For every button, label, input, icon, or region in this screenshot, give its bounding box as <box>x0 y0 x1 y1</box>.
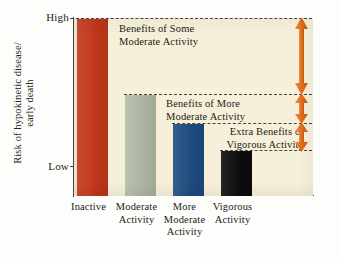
bar-vigorous-activity <box>221 151 252 196</box>
y-tick-label-low: Low <box>38 160 69 172</box>
bar-inactive <box>77 19 108 196</box>
bar-moderate-activity <box>125 95 156 196</box>
annotation-some-moderate-line2: Moderate Activity <box>119 36 198 49</box>
annotation-more-moderate-line2: Moderate Activity <box>166 111 245 124</box>
y-tick-label-high: High <box>38 11 69 23</box>
annotation-vigorous-line2: Vigorous Activity <box>200 139 304 152</box>
x-tick-vigorous-line2: Activity <box>201 214 264 227</box>
arrow-benefit-some-moderate <box>293 18 310 96</box>
annotation-more-moderate-line1: Benefits of More <box>166 98 245 111</box>
annotation-more-moderate: Benefits of More Moderate Activity <box>166 98 245 124</box>
plot-area: Benefits of Some Moderate Activity Benef… <box>74 18 313 196</box>
annotation-vigorous: Extra Benefits of Vigorous Activity <box>200 126 304 152</box>
x-tick-vigorous-line1: Vigorous <box>201 201 264 214</box>
dash-line-moderate-top <box>124 94 312 95</box>
x-tick-label-vigorous-activity: Vigorous Activity <box>201 201 264 226</box>
chart-figure: Risk of hypokinetic disease/ early death… <box>0 0 340 258</box>
y-axis-label-line2: early death <box>24 42 36 164</box>
x-tick-more-moderate-line3: Activity <box>153 226 216 239</box>
annotation-some-moderate-line1: Benefits of Some <box>119 23 198 36</box>
arrow-extra-benefit-vigorous <box>293 121 310 153</box>
y-axis-label-line1: Risk of hypokinetic disease/ <box>12 42 24 164</box>
annotation-some-moderate: Benefits of Some Moderate Activity <box>119 23 198 49</box>
dash-line-inactive-top <box>76 18 312 19</box>
annotation-vigorous-line1: Extra Benefits of <box>200 126 304 139</box>
